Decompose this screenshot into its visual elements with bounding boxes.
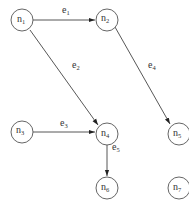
graph-canvas: e1 e2 e3 e4 e5 n1 n2 n3 n4 n5 n6 n7 — [0, 0, 189, 209]
edge-e2 — [30, 30, 98, 125]
node-n1: n1 — [11, 9, 33, 31]
node-n4: n4 — [96, 123, 118, 145]
node-n5: n5 — [168, 123, 189, 145]
edge-label-e3: e3 — [60, 117, 68, 129]
node-n6: n6 — [96, 177, 118, 199]
edge-label-e2: e2 — [72, 59, 80, 71]
node-n7: n7 — [168, 177, 189, 199]
edge-label-e4: e4 — [148, 59, 156, 71]
node-n3: n3 — [11, 121, 33, 143]
edge-e4 — [115, 27, 170, 124]
node-n2: n2 — [96, 9, 118, 31]
edge-label-e1: e1 — [62, 4, 70, 16]
